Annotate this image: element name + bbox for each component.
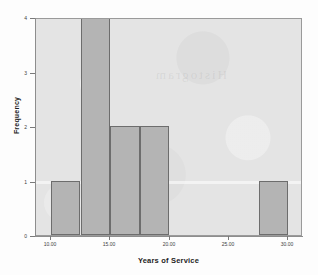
x-tick-label: 30.00 (273, 241, 301, 248)
y-tick-label: 0 (13, 233, 27, 239)
x-tick-mark (169, 236, 170, 240)
x-tick-label: 25.00 (214, 241, 242, 248)
histogram-bar (140, 126, 170, 235)
y-tick-mark (30, 127, 35, 128)
x-tick-mark (50, 236, 51, 240)
histogram-bar (51, 181, 81, 236)
x-tick-mark (228, 236, 229, 240)
x-tick-label: 10.00 (36, 241, 64, 248)
plot-area: Histogram (35, 18, 302, 236)
x-tick-mark (287, 236, 288, 240)
y-axis-title: Frequency (13, 76, 20, 156)
x-axis-title: Years of Service (35, 256, 302, 265)
y-tick-mark (30, 236, 35, 237)
histogram-figure: Histogram 01234 10.0015.0020.0025.0030.0… (0, 0, 318, 275)
y-axis-line (35, 18, 36, 237)
x-tick-label: 20.00 (155, 241, 183, 248)
histogram-bar (81, 18, 111, 235)
x-tick-label: 15.00 (95, 241, 123, 248)
y-tick-mark (30, 73, 35, 74)
y-tick-mark (30, 18, 35, 19)
histogram-bar (110, 126, 140, 235)
x-tick-mark (109, 236, 110, 240)
histogram-bar (259, 181, 289, 236)
ghost-text: Histogram (154, 67, 227, 83)
y-tick-label: 1 (13, 179, 27, 185)
y-tick-label: 4 (13, 15, 27, 21)
y-tick-mark (30, 182, 35, 183)
